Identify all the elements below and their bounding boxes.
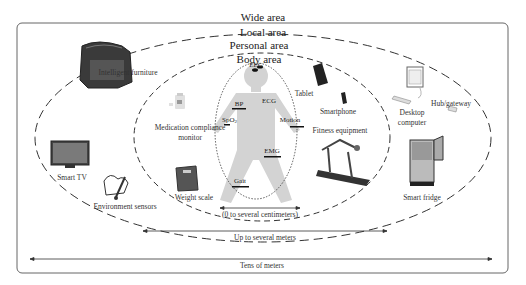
intelligent-furniture-label: Intelligent furniture <box>99 69 158 77</box>
weight-scale-icon <box>176 166 198 191</box>
smart-tv-label: Smart TV <box>57 174 87 182</box>
armchair-icon <box>80 42 132 88</box>
sensor-label-gait: Gait <box>234 178 246 185</box>
personal-range-label: Up to several meters <box>234 234 296 242</box>
smart-tv-icon <box>51 141 89 168</box>
weight-scale-label: Weight scale <box>175 194 213 202</box>
tablet-label: Tablet <box>295 90 314 98</box>
smart-fridge-label: Smart fridge <box>403 194 441 202</box>
fitness-equipment-label: Fitness equipment <box>313 127 368 135</box>
spo2-subscript: 2 <box>234 119 237 124</box>
body-range-label: (0 to several centimeters) <box>222 211 298 219</box>
medication-monitor-label: Medication compliance <box>155 124 226 132</box>
desktop-computer-label: Desktop <box>400 109 425 117</box>
desktop-computer-label-line2: computer <box>398 119 426 127</box>
environment-sensors-label: Environment sensors <box>93 203 156 211</box>
hub-gateway-label: Hub/gateway <box>431 100 471 108</box>
personal-area-label: Personal area <box>230 40 289 51</box>
sensor-label-bp: BP <box>235 101 244 108</box>
smartphone-label: Smartphone <box>320 108 356 116</box>
sensor-label-ecg: ECG <box>262 98 276 105</box>
wide-range-label: Tens of meters <box>240 262 284 270</box>
local-area-label: Local area <box>240 27 286 38</box>
sensor-label-emg: EMG <box>264 148 280 155</box>
wide-area-label: Wide area <box>241 12 285 23</box>
medication-monitor-label-line2: monitor <box>178 134 202 142</box>
sensor-label-motion: Motion <box>280 117 301 124</box>
sensor-label-eeg: EEG <box>249 62 263 69</box>
